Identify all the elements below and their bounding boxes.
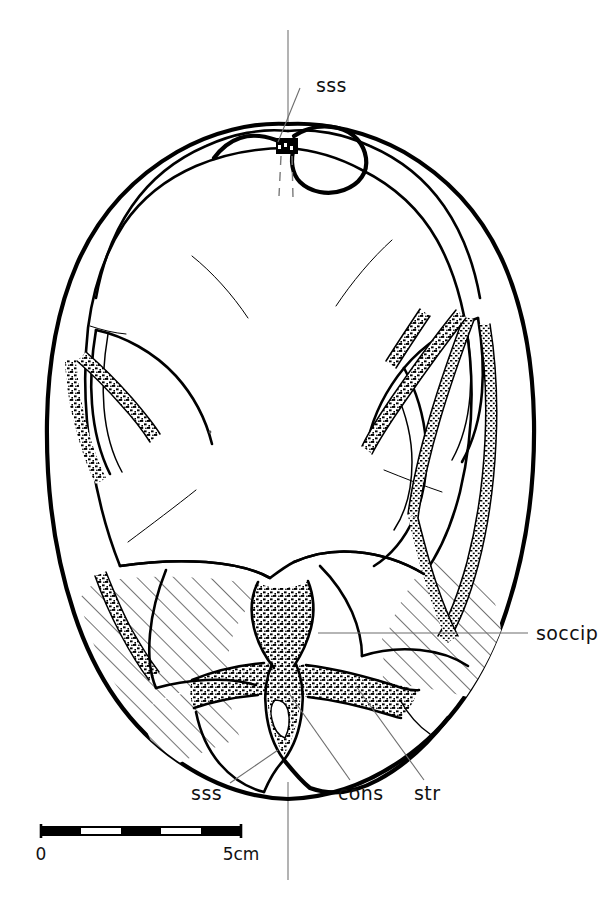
scale-bar-segment-2 [81,827,121,835]
scale-bar-segment-1 [41,827,81,835]
surface-dot [209,431,212,434]
label-sss-top: sss [316,74,347,96]
label-str: str [414,782,440,804]
skull-diagram-svg: sss sss cons str soccip 0 5cm [0,0,615,907]
sss-knot-void-3 [290,146,293,150]
label-cons: cons [338,782,384,804]
label-soccip: soccip [536,622,598,644]
label-sss-bottom: sss [191,782,222,804]
scale-bar-segment-3 [121,827,161,835]
figure-root: sss sss cons str soccip 0 5cm [0,0,615,907]
scale-bar-start-label: 0 [36,844,47,864]
midline-dash-right [292,156,293,198]
scale-bar-end-label: 5cm [223,844,260,864]
scale-bar-segment-4 [161,827,201,835]
scale-bar-segment-5 [201,827,241,835]
sss-knot-void-1 [278,145,281,149]
sss-knot-void-2 [284,143,287,147]
